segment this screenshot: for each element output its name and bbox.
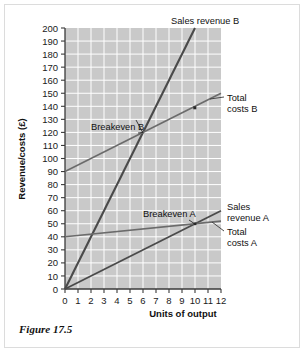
y-tick-label: 50 xyxy=(47,218,58,229)
y-axis-tick-labels: 200 190 180 170 160 150 140 130 120 110 … xyxy=(42,23,58,295)
series-label-total-costs-a-line2: costs A xyxy=(227,238,258,248)
y-tick-label: 190 xyxy=(42,36,58,47)
series-label-sales-revenue-b: Sales revenue B xyxy=(171,16,239,26)
y-tick-label: 90 xyxy=(47,166,58,177)
y-tick-label: 140 xyxy=(42,101,58,112)
breakeven-chart: 200 190 180 170 160 150 140 130 120 110 … xyxy=(5,5,299,347)
figure-card: 200 190 180 170 160 150 140 130 120 110 … xyxy=(4,4,300,348)
series-label-total-costs-b-line2: costs B xyxy=(227,104,257,114)
x-tick-label: 10 xyxy=(190,295,201,306)
total-costs-b-marker xyxy=(193,106,196,109)
x-tick-label: 2 xyxy=(88,295,93,306)
series-label-sales-revenue-a-line2: revenue A xyxy=(227,213,270,223)
y-tick-label: 60 xyxy=(47,205,58,216)
series-label-sales-revenue-a-line1: Sales xyxy=(227,202,251,212)
y-tick-label: 0 xyxy=(53,284,58,295)
x-tick-label: 5 xyxy=(127,295,132,306)
y-axis-title: Revenue/costs (£) xyxy=(16,118,27,199)
y-tick-label: 180 xyxy=(42,49,58,60)
x-tick-label: 12 xyxy=(216,295,227,306)
x-tick-label: 7 xyxy=(153,295,158,306)
y-tick-label: 130 xyxy=(42,114,58,125)
figure-caption: Figure 17.5 xyxy=(18,323,73,335)
annotation-breakeven-b: Breakeven B xyxy=(91,122,144,132)
y-tick-label: 40 xyxy=(47,231,58,242)
x-tick-label: 6 xyxy=(140,295,145,306)
x-tick-label: 3 xyxy=(101,295,106,306)
x-tick-label: 11 xyxy=(203,295,213,306)
annotation-breakeven-a: Breakeven A xyxy=(143,209,197,219)
y-tick-label: 150 xyxy=(42,88,58,99)
x-tick-label: 0 xyxy=(62,295,67,306)
x-tick-label: 8 xyxy=(166,295,171,306)
series-label-total-costs-a-line1: Total xyxy=(227,227,247,237)
y-tick-label: 10 xyxy=(47,271,58,282)
y-tick-label: 20 xyxy=(47,257,58,268)
x-tick-label: 4 xyxy=(114,295,119,306)
y-axis-ticks xyxy=(61,28,65,289)
y-tick-label: 120 xyxy=(42,127,58,138)
x-tick-label: 9 xyxy=(179,295,184,306)
breakeven-a-point xyxy=(193,222,196,225)
y-tick-label: 170 xyxy=(42,62,58,73)
x-tick-label: 1 xyxy=(75,295,80,306)
y-tick-label: 30 xyxy=(47,244,58,255)
series-label-total-costs-b-line1: Total xyxy=(227,93,247,103)
x-axis-title: Units of output xyxy=(149,308,217,319)
y-tick-label: 200 xyxy=(42,23,58,34)
y-tick-label: 110 xyxy=(43,140,58,151)
x-axis-tick-labels: 0 1 2 3 4 5 6 7 8 9 10 11 12 xyxy=(62,295,226,306)
y-tick-label: 100 xyxy=(42,153,58,164)
y-tick-label: 70 xyxy=(47,192,58,203)
y-tick-label: 160 xyxy=(42,75,58,86)
y-tick-label: 80 xyxy=(47,179,58,190)
